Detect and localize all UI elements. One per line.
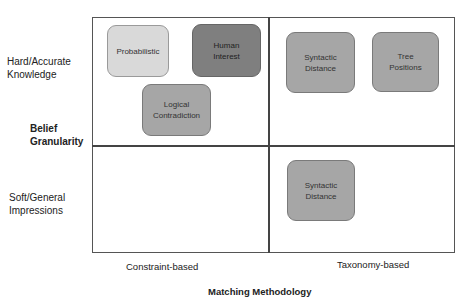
- box-label: Probabilistic: [116, 46, 159, 57]
- box-label: Contradiction: [153, 110, 200, 121]
- box-label: Human: [213, 40, 240, 51]
- box-label-wrap: Syntactic Distance: [304, 52, 336, 74]
- y-label-line: Soft/General: [9, 191, 65, 204]
- y-label-line: Impressions: [9, 204, 65, 217]
- x-label-constraint-based: Constraint-based: [126, 261, 198, 272]
- box-label-wrap: Logical Contradiction: [153, 99, 200, 121]
- box-label-wrap: Tree Positions: [389, 51, 421, 73]
- box-label: Interest: [213, 51, 240, 62]
- x-axis-title: Matching Methodology: [208, 286, 311, 297]
- box-label: Tree: [389, 51, 421, 62]
- horizontal-divider: [92, 145, 455, 147]
- box-label: Syntactic: [304, 52, 336, 63]
- y-title-line: Granularity: [30, 135, 83, 148]
- box-tree-positions: Tree Positions: [372, 32, 439, 92]
- box-label: Logical: [153, 99, 200, 110]
- box-label-wrap: Human Interest: [213, 40, 240, 62]
- box-human-interest: Human Interest: [192, 24, 261, 77]
- vertical-divider: [268, 17, 270, 253]
- box-label-wrap: Syntactic Distance: [305, 180, 337, 202]
- box-syntactic-distance-bottom: Syntactic Distance: [287, 160, 355, 221]
- y-label-soft-general-impressions: Soft/General Impressions: [9, 191, 65, 217]
- box-logical-contradiction: Logical Contradiction: [142, 84, 211, 136]
- box-syntactic-distance-top: Syntactic Distance: [286, 32, 355, 93]
- y-label-line: Knowledge: [7, 68, 71, 81]
- box-label: Distance: [304, 63, 336, 74]
- y-label-hard-accurate-knowledge: Hard/Accurate Knowledge: [7, 55, 71, 81]
- y-title-line: Belief: [30, 122, 83, 135]
- box-label: Distance: [305, 191, 337, 202]
- y-label-line: Hard/Accurate: [7, 55, 71, 68]
- y-axis-title: Belief Granularity: [30, 122, 83, 148]
- box-label: Positions: [389, 62, 421, 73]
- box-probabilistic: Probabilistic: [107, 25, 169, 77]
- x-label-taxonomy-based: Taxonomy-based: [337, 259, 409, 270]
- box-label: Syntactic: [305, 180, 337, 191]
